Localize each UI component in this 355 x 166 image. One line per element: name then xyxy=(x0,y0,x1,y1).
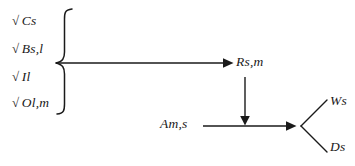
reactant-label-bsl: √Bs,l xyxy=(12,42,43,56)
diagram-canvas: √Cs √Bs,l √Il √Ol,m Rs,m Am,s Ws Ds xyxy=(0,0,355,166)
product-label-ds: Ds xyxy=(330,140,345,154)
branch-junction-to-ds xyxy=(301,126,327,152)
product-label-ws: Ws xyxy=(330,94,347,108)
reactant-text-olm: Ol,m xyxy=(22,95,49,110)
reactant-label-ams: Am,s xyxy=(160,117,187,131)
radical-icon-bsl: √ xyxy=(12,42,22,55)
radical-icon-il: √ xyxy=(12,70,22,83)
reactant-text-bsl: Bs,l xyxy=(22,41,43,56)
reactant-group-brace xyxy=(56,9,73,114)
intermediate-label-rsm: Rs,m xyxy=(236,55,263,69)
diagram-vector-layer xyxy=(0,0,355,166)
reactant-label-cs: √Cs xyxy=(12,14,37,28)
reactant-text-il: Il xyxy=(22,69,31,84)
arrow-brace-to-rsm-head xyxy=(223,58,234,68)
arrow-rsm-to-junction-head xyxy=(240,116,250,126)
radical-icon-cs: √ xyxy=(12,14,22,27)
reactant-label-il: √Il xyxy=(12,70,31,84)
radical-icon-olm: √ xyxy=(12,96,22,109)
reactant-label-olm: √Ol,m xyxy=(12,96,49,110)
reactant-text-cs: Cs xyxy=(22,13,37,28)
branch-junction-to-ws xyxy=(301,100,327,126)
arrow-ams-to-junction-head xyxy=(286,121,297,131)
